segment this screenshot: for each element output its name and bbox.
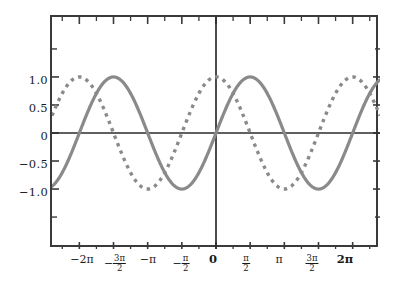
x-tick-label: 3π2 — [306, 254, 319, 272]
x-tick-label: π2 — [242, 254, 250, 272]
x-tick-sign: − — [104, 257, 113, 270]
x-tick-label: π — [275, 254, 282, 265]
fraction-denominator: 2 — [242, 264, 250, 273]
plot-canvas — [52, 17, 380, 249]
x-tick-label-origin: 0 — [209, 254, 217, 266]
x-tick-fraction: 3π2 — [113, 254, 126, 272]
y-tick-label: −0.5 — [4, 159, 48, 171]
fraction-denominator: 2 — [306, 264, 319, 273]
figure-container: 1.0 0.5 0 −0.5 −1.0 −2π −3π2 −π −π2 0 π2… — [0, 0, 404, 293]
fraction-denominator: 2 — [182, 264, 190, 273]
fraction-denominator: 2 — [113, 264, 126, 273]
x-tick-label: −3π2 — [104, 254, 126, 272]
x-tick-label: −2π — [70, 254, 93, 265]
x-tick-sign: − — [173, 257, 182, 270]
x-tick-label: −π — [140, 254, 156, 265]
x-tick-fraction: π2 — [242, 254, 250, 272]
x-tick-fraction: π2 — [182, 254, 190, 272]
x-tick-fraction: 3π2 — [306, 254, 319, 272]
y-tick-label: 1.0 — [4, 75, 48, 87]
y-tick-label: 0 — [4, 131, 48, 143]
y-tick-label: −1.0 — [4, 187, 48, 199]
x-tick-label: 2π — [337, 254, 353, 266]
x-tick-label: −π2 — [173, 254, 190, 272]
y-tick-label: 0.5 — [4, 103, 48, 115]
plot-area — [50, 15, 378, 247]
